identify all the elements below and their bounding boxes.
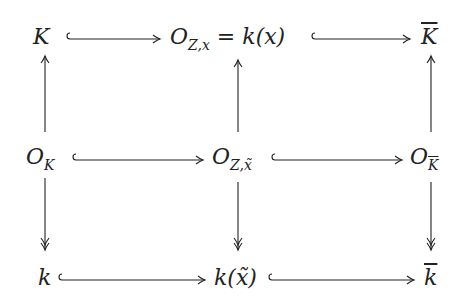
- node-k-xtilde: k(x̃): [214, 267, 257, 289]
- surj-arrow-left: [41, 178, 49, 250]
- node-OKbar-label: O: [410, 144, 428, 169]
- hook-arrow-bot-left: [59, 274, 205, 280]
- hook-arrow-bot-right: [269, 274, 414, 280]
- node-OK-label: O: [26, 144, 44, 169]
- node-k-label: k: [38, 265, 51, 290]
- node-k-bar: k: [424, 267, 437, 289]
- surj-arrow-right: [427, 182, 435, 250]
- surj-arrow-mid: [234, 182, 242, 250]
- node-K-label: K: [33, 24, 49, 49]
- node-OZ-sub: Z,x̃: [230, 157, 252, 173]
- node-kx-tilde-label: k(x̃): [214, 265, 257, 290]
- node-O-label: O: [170, 24, 188, 49]
- node-k-bar-label: k: [424, 265, 437, 290]
- node-k: k: [38, 267, 51, 289]
- node-O-sub: Z,x: [188, 37, 210, 53]
- hook-arrow-top-right: [312, 33, 410, 39]
- node-OK-sub: K: [44, 157, 54, 173]
- node-O-Zx-equals-kx: OZ,x = k(x): [170, 26, 285, 48]
- node-kx-label: = k(x): [210, 24, 285, 49]
- node-OKbar-sub: K: [428, 157, 438, 173]
- node-O-K-bar: OK: [410, 146, 439, 168]
- node-K-bar: K: [421, 26, 437, 48]
- node-K: K: [33, 26, 49, 48]
- hook-arrow-mid-left: [73, 154, 203, 160]
- hook-arrow-mid-right: [272, 154, 402, 160]
- node-O-Z-xtilde: OZ,x̃: [212, 146, 252, 168]
- node-O-K: OK: [26, 146, 55, 168]
- node-K-bar-label: K: [421, 24, 437, 49]
- hook-arrow-top-left: [67, 33, 160, 39]
- node-OZ-label: O: [212, 144, 230, 169]
